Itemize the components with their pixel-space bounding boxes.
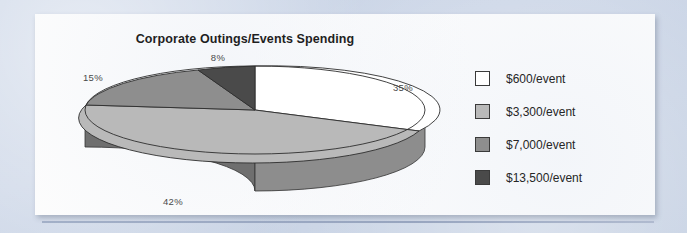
page-divider-rule — [42, 221, 654, 223]
pie-label-3300: 42% — [153, 196, 193, 207]
legend-label-13500: $13,500/event — [506, 171, 582, 185]
legend-label-600: $600/event — [506, 72, 565, 86]
legend-item-3300: $3,300/event — [475, 95, 655, 128]
legend-item-600: $600/event — [475, 62, 655, 95]
chart-card: Corporate Outings/Events Spending 8% 15%… — [35, 14, 655, 215]
legend-swatch-7000-icon — [475, 137, 490, 152]
pie-label-600: 35% — [383, 82, 423, 93]
legend-swatch-600-icon — [475, 71, 490, 86]
pie-label-13500: 8% — [198, 52, 238, 63]
legend-swatch-13500-icon — [475, 170, 490, 185]
pie-chart: 8% 15% 35% 42% — [35, 14, 465, 215]
chart-legend: $600/event $3,300/event $7,000/event $13… — [475, 62, 655, 194]
legend-label-3300: $3,300/event — [506, 105, 575, 119]
legend-item-7000: $7,000/event — [475, 128, 655, 161]
legend-label-7000: $7,000/event — [506, 138, 575, 152]
legend-item-13500: $13,500/event — [475, 161, 655, 194]
pie-label-7000: 15% — [73, 72, 113, 83]
legend-swatch-3300-icon — [475, 104, 490, 119]
pie-chart-svg — [35, 14, 465, 215]
